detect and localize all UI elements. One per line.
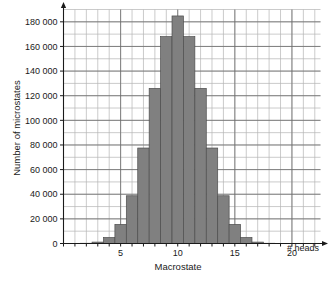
histogram-bar bbox=[115, 224, 126, 243]
x-tick-label: 5 bbox=[118, 248, 123, 258]
histogram-bar bbox=[138, 148, 149, 243]
histogram-bar bbox=[126, 196, 137, 244]
y-tick-label: 40 000 bbox=[30, 189, 58, 199]
y-tick-label: 20 000 bbox=[30, 214, 58, 224]
histogram-bar bbox=[206, 148, 217, 243]
x-axis-annotation-heads: # heads bbox=[287, 243, 320, 253]
y-axis-title: Number of microstates bbox=[11, 80, 22, 176]
y-tick-label: 140 000 bbox=[25, 66, 58, 76]
x-axis-title: Macrostate bbox=[155, 261, 202, 272]
microstates-histogram-chart: 020 00040 00060 00080 000100 000120 0001… bbox=[0, 0, 333, 281]
y-tick-label: 0 bbox=[52, 239, 57, 249]
histogram-bar bbox=[161, 37, 172, 244]
y-tick-label: 80 000 bbox=[30, 140, 58, 150]
histogram-bar bbox=[103, 238, 114, 244]
histogram-bar bbox=[218, 196, 229, 244]
y-axis-tick-labels: 020 00040 00060 00080 000100 000120 0001… bbox=[25, 17, 64, 249]
y-tick-label: 160 000 bbox=[25, 42, 58, 52]
histogram-bar bbox=[195, 88, 206, 243]
y-tick-label: 120 000 bbox=[25, 91, 58, 101]
x-tick-label: 15 bbox=[230, 248, 240, 258]
histogram-bar bbox=[229, 224, 240, 243]
histogram-bar bbox=[241, 238, 252, 244]
y-tick-label: 60 000 bbox=[30, 165, 58, 175]
x-tick-label: 10 bbox=[173, 248, 183, 258]
histogram-figure: 020 00040 00060 00080 000100 000120 0001… bbox=[0, 0, 333, 281]
x-axis-tick-labels: 5101520 bbox=[64, 244, 315, 259]
histogram-bar bbox=[172, 16, 183, 244]
histogram-bar bbox=[183, 37, 194, 244]
y-tick-label: 180 000 bbox=[25, 17, 58, 27]
y-tick-label: 100 000 bbox=[25, 116, 58, 126]
histogram-bar bbox=[149, 88, 160, 243]
